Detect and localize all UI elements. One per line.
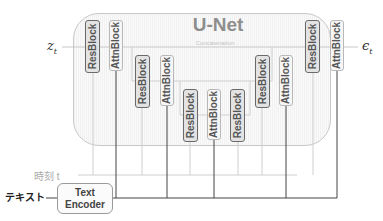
attnblock-down-1: AttnBlock bbox=[109, 20, 123, 71]
resblock-down-2: ResBlock bbox=[135, 55, 150, 108]
resblock-down-1: ResBlock bbox=[85, 20, 100, 73]
text-encoder-box: Text Encoder bbox=[57, 183, 113, 214]
resblock-up-2: ResBlock bbox=[305, 20, 320, 73]
resblock-up-1: ResBlock bbox=[255, 55, 270, 108]
resblock-mid-1: ResBlock bbox=[183, 89, 198, 142]
time-label: 時刻 t bbox=[34, 168, 60, 183]
attnblock-down-2: AttnBlock bbox=[160, 55, 174, 106]
resblock-mid-2: ResBlock bbox=[230, 89, 245, 142]
text-input-label: テキスト bbox=[5, 189, 45, 204]
concatenation-label: Concatenation bbox=[160, 40, 270, 46]
attnblock-mid: AttnBlock bbox=[207, 89, 221, 140]
attnblock-up-2: AttnBlock bbox=[330, 20, 344, 71]
attnblock-up-1: AttnBlock bbox=[279, 55, 293, 106]
input-zt-label: zt bbox=[47, 38, 57, 56]
unet-title: U-Net bbox=[183, 14, 253, 36]
output-epsilon-label: ϵt bbox=[362, 38, 373, 56]
